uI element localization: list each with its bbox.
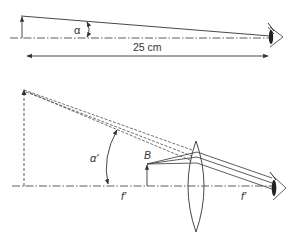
object-label-b: B	[144, 149, 151, 161]
angle-arc-alpha-prime	[106, 130, 117, 184]
ray-top	[21, 16, 270, 36]
ray-out-3	[197, 163, 272, 189]
distance-label: 25 cm	[133, 41, 162, 53]
magnifier-diagram: α 25 cm B	[0, 0, 297, 241]
angle-label-alpha-prime: α'	[90, 152, 99, 164]
angle-arc-alpha	[87, 22, 89, 37]
top-panel: α 25 cm	[10, 16, 283, 56]
virtual-image-arrowhead	[22, 89, 27, 95]
convex-lens	[188, 141, 204, 232]
focal-label-right: f'	[241, 190, 247, 202]
focal-label-left: f'	[121, 190, 127, 202]
virtual-ray-3	[30, 93, 192, 161]
virtual-ray-1	[24, 90, 192, 150]
ray-out-1	[197, 152, 272, 178]
bottom-panel: B α' f' f'	[12, 89, 286, 232]
eye-icon-bottom	[270, 172, 286, 200]
eye-icon-top	[268, 23, 283, 47]
ray-out-2	[197, 157, 272, 183]
angle-label-alpha: α	[74, 24, 81, 36]
